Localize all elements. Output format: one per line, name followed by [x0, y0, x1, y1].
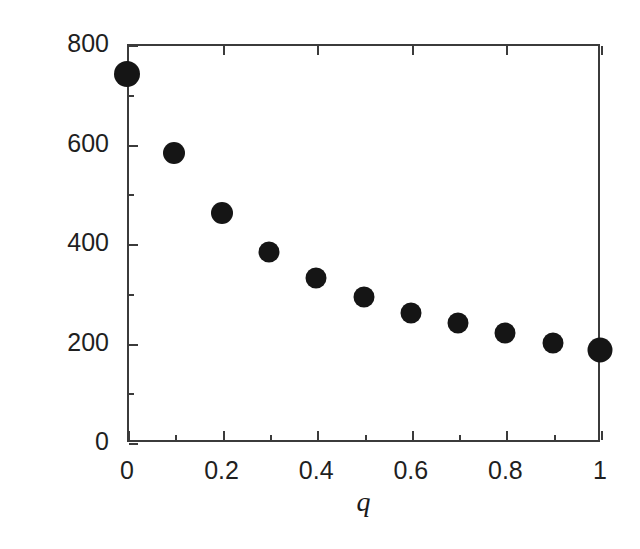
y-tick-major [129, 344, 138, 346]
x-tick-top-major [223, 46, 225, 55]
x-tick-label: 0.6 [371, 458, 451, 483]
y-tick-minor [129, 95, 134, 97]
data-point [588, 337, 613, 362]
x-tick-minor [270, 435, 272, 440]
y-tick-major [129, 443, 138, 445]
x-tick-major [412, 431, 414, 440]
x-tick-top-major [506, 46, 508, 55]
x-tick-label: 0.8 [465, 458, 545, 483]
x-tick-top-major [412, 46, 414, 55]
x-tick-major [223, 431, 225, 440]
x-tick-major [317, 431, 319, 440]
data-point [163, 142, 185, 164]
x-axis-title: q [127, 486, 600, 518]
x-tick-label: 0 [87, 458, 167, 483]
y-tick-label: 200 [0, 330, 109, 355]
x-tick-minor [459, 435, 461, 440]
x-tick-label: 0.4 [276, 458, 356, 483]
data-point [542, 332, 563, 353]
y-tick-minor [129, 194, 134, 196]
data-point [400, 302, 421, 323]
data-point [258, 241, 279, 262]
x-tick-minor [175, 435, 177, 440]
x-tick-minor [554, 435, 556, 440]
y-tick-label: 800 [0, 31, 109, 56]
x-tick-minor [365, 435, 367, 440]
y-tick-minor [129, 393, 134, 395]
x-tick-major [506, 431, 508, 440]
data-point [114, 61, 140, 87]
x-tick-top-major [317, 46, 319, 55]
plot-area [127, 44, 600, 442]
y-tick-major [129, 244, 138, 246]
x-tick-major [601, 431, 603, 440]
chart-figure: Corridor width q 020040060080000.20.40.6… [0, 0, 640, 549]
y-tick-label: 400 [0, 230, 109, 255]
data-point [306, 267, 327, 288]
data-point [353, 286, 374, 307]
data-point [211, 202, 233, 224]
x-tick-major [128, 431, 130, 440]
data-point [448, 312, 469, 333]
y-tick-major [129, 45, 138, 47]
x-tick-top-major [601, 46, 603, 55]
y-tick-minor [129, 294, 134, 296]
y-tick-label: 0 [0, 429, 109, 454]
y-tick-label: 600 [0, 131, 109, 156]
x-tick-label: 1 [560, 458, 640, 483]
y-tick-major [129, 145, 138, 147]
x-tick-label: 0.2 [182, 458, 262, 483]
data-point [495, 322, 516, 343]
